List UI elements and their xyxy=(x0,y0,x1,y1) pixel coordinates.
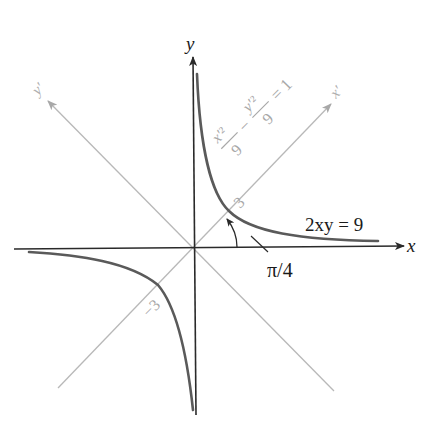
y-axis-label: y xyxy=(184,33,195,54)
rotated-eq-equals: = 1 xyxy=(267,75,296,104)
hyperbola-branch-lower-left xyxy=(29,252,193,410)
y-prime-axis-label: y′ xyxy=(27,79,47,99)
x-axis-label: x xyxy=(406,235,416,256)
angle-label: π/4 xyxy=(267,259,293,281)
curve-equation-label: 2xy = 9 xyxy=(305,214,363,235)
angle-arc xyxy=(227,219,237,247)
rotated-eq-term1-denominator: 9 xyxy=(228,141,246,159)
hyperbola-rotation-diagram: y x x′ y′ 2xy = 9 π/4 3 −3 x′² 9 − y′² 9… xyxy=(0,0,437,424)
rotated-axes xyxy=(48,101,334,391)
angle-leader-line xyxy=(251,236,268,252)
y-prime-axis xyxy=(48,101,334,391)
rotated-eq-term2-denominator: 9 xyxy=(259,110,277,128)
hyperbola xyxy=(29,74,378,410)
vertex-label-positive: 3 xyxy=(230,193,248,211)
x-axis xyxy=(14,246,404,249)
main-axes xyxy=(14,57,404,415)
y-axis xyxy=(193,57,196,415)
x-prime-axis-label: x′ xyxy=(326,82,346,102)
